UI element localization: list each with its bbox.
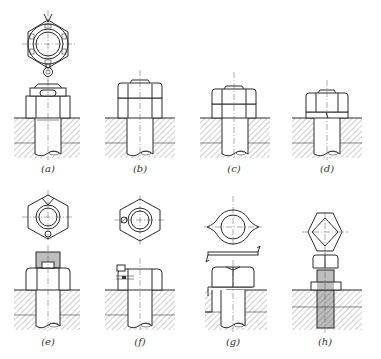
panel-label-e: (e): [41, 336, 55, 347]
panel-a: [14, 10, 80, 160]
panel-c: [200, 72, 270, 160]
fastener-locking-methods-drawing: [0, 0, 381, 359]
panel-label-h: (h): [318, 336, 332, 347]
panel-g: [204, 196, 267, 332]
panel-label-d: (d): [320, 163, 334, 174]
panel-e: [14, 190, 80, 332]
panel-f: [105, 195, 175, 332]
panel-label-f: (f): [134, 336, 146, 347]
panel-b: [105, 70, 175, 160]
panel-d: [292, 80, 362, 160]
front-section-castle-nut: [14, 80, 80, 160]
panel-label-c: (c): [227, 163, 240, 174]
panel-label-g: (g): [226, 336, 240, 347]
panel-label-b: (b): [133, 163, 147, 174]
panel-h: [292, 212, 362, 334]
panel-label-a: (a): [41, 163, 55, 174]
top-view-castle-nut: [22, 10, 76, 98]
